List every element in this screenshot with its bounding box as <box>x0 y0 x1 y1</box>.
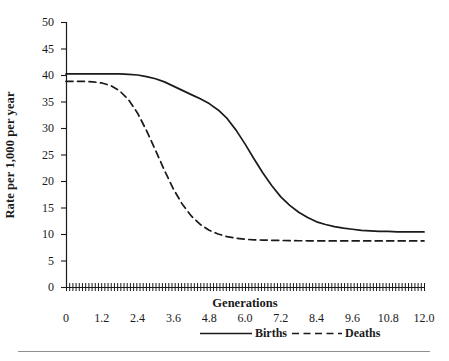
legend-label-births: Births <box>255 327 287 340</box>
x-tick-label: 1.2 <box>82 312 122 324</box>
x-tick-label: 10.8 <box>368 312 408 324</box>
y-tick-label: 50 <box>28 16 54 28</box>
x-tick-label: 8.4 <box>297 312 337 324</box>
x-tick-label: 0 <box>46 312 86 324</box>
x-tick-label: 7.2 <box>261 312 301 324</box>
x-tick-label: 4.8 <box>189 312 229 324</box>
y-tick-label: 45 <box>28 43 54 55</box>
y-tick-label: 20 <box>28 175 54 187</box>
y-tick-label: 40 <box>28 69 54 81</box>
x-axis-title: Generations <box>66 296 424 310</box>
y-tick-label: 5 <box>28 255 54 267</box>
x-tick-label: 3.6 <box>153 312 193 324</box>
x-tick-label: 6.0 <box>225 312 265 324</box>
y-tick-label: 35 <box>28 96 54 108</box>
x-tick-label: 2.4 <box>118 312 158 324</box>
y-tick-label: 0 <box>28 281 54 293</box>
y-tick-label: 10 <box>28 228 54 240</box>
legend-label-deaths: Deaths <box>345 327 380 340</box>
y-tick-label: 15 <box>28 202 54 214</box>
axes <box>61 22 425 291</box>
series-line-births <box>66 74 424 232</box>
data-series <box>66 74 424 241</box>
y-tick-label: 30 <box>28 122 54 134</box>
chart-figure: Rate per 1,000 per year 0510152025303540… <box>0 0 449 361</box>
x-tick-label: 9.6 <box>332 312 372 324</box>
y-tick-label: 25 <box>28 149 54 161</box>
x-tick-label: 12.0 <box>404 312 444 324</box>
y-axis-title: Rate per 1,000 per year <box>1 23 19 288</box>
series-line-deaths <box>66 81 424 241</box>
